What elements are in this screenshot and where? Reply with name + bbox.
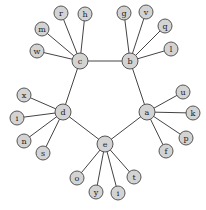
- node-r: r: [54, 6, 68, 20]
- node-q: q: [158, 19, 172, 33]
- node-label: c: [78, 57, 83, 66]
- edge-layer: [17, 12, 193, 193]
- node-label: o: [75, 174, 80, 183]
- node-g: g: [117, 6, 131, 20]
- node-a: a: [139, 104, 155, 120]
- node-label: m: [38, 25, 46, 34]
- node-b: b: [122, 53, 138, 69]
- node-m: m: [35, 22, 49, 36]
- node-layer: cbaedrhmwgvqlukpftiyoxins: [10, 5, 200, 200]
- node-label: g: [121, 9, 126, 18]
- node-label: y: [93, 188, 99, 197]
- node-o: o: [70, 171, 84, 185]
- node-label: i: [117, 189, 120, 198]
- node-c: c: [72, 53, 88, 69]
- node-label: b: [127, 57, 132, 66]
- node-label: e: [103, 140, 108, 149]
- node-f: f: [159, 144, 173, 158]
- node-label: w: [34, 47, 41, 56]
- node-label: s: [41, 149, 45, 158]
- node-t: t: [127, 170, 141, 184]
- node-p: p: [179, 131, 193, 145]
- node-label: u: [180, 88, 185, 97]
- node-label: d: [60, 108, 65, 117]
- node-l: l: [164, 42, 178, 56]
- node-x: x: [17, 88, 31, 102]
- node-k: k: [186, 106, 200, 120]
- node-y: y: [89, 185, 103, 199]
- node-w: w: [30, 44, 44, 58]
- node-label: p: [183, 134, 188, 143]
- node-label: r: [59, 9, 63, 18]
- node-label: n: [21, 137, 26, 146]
- node-u: u: [176, 85, 190, 99]
- node-e: e: [97, 136, 113, 152]
- node-label: i: [16, 114, 19, 123]
- node-s: s: [36, 146, 50, 160]
- node-label: x: [22, 91, 27, 100]
- node-label: q: [162, 22, 167, 31]
- node-n: n: [17, 134, 31, 148]
- node-label: h: [82, 10, 87, 19]
- node-label: v: [143, 8, 149, 17]
- graph-diagram: cbaedrhmwgvqlukpftiyoxins: [0, 0, 206, 210]
- node-label: a: [145, 108, 150, 117]
- node-i: i: [10, 111, 24, 125]
- node-v: v: [139, 5, 153, 19]
- node-label: k: [191, 109, 196, 118]
- node-h: h: [78, 7, 92, 21]
- node-i: i: [111, 186, 125, 200]
- node-label: l: [170, 45, 173, 54]
- node-d: d: [55, 104, 71, 120]
